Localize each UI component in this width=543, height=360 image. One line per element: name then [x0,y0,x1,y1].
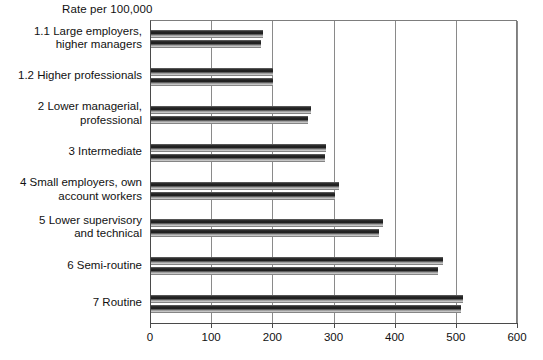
x-tick-200 [272,323,273,328]
chart-axis-note: Rate per 100,000 [62,3,152,15]
bar-group [151,21,516,323]
bar [151,40,261,48]
bar-row [151,68,516,97]
bar [151,229,379,237]
bar [151,78,273,86]
gridline-600 [517,21,518,323]
bar [151,192,335,200]
bar-row [151,295,516,324]
chart-container: Rate per 100,000 1.1 Large employers, hi… [0,0,543,360]
category-label: 2 Lower managerial, professional [0,100,142,127]
x-tick-100 [211,323,212,328]
category-label: 3 Intermediate [0,145,142,159]
category-label: 6 Semi-routine [0,259,142,273]
x-tick-label: 500 [446,331,465,343]
x-tick-label: 400 [385,331,404,343]
bar [151,154,325,162]
x-tick-label: 0 [147,331,153,343]
category-label: 7 Routine [0,296,142,310]
x-tick-label: 300 [324,331,343,343]
x-tick-0 [150,323,151,328]
x-tick-400 [395,323,396,328]
bar [151,68,273,76]
x-tick-label: 200 [263,331,282,343]
bar [151,116,308,124]
x-tick-600 [517,323,518,328]
bar-row [151,257,516,286]
x-tick-label: 100 [202,331,221,343]
bar [151,30,263,38]
category-label-group: 1.1 Large employers, higher managers 1.2… [0,20,146,323]
plot-area [150,20,517,323]
bar [151,295,463,303]
bar [151,257,443,265]
bar-row [151,30,516,59]
x-tick-500 [456,323,457,328]
bar [151,267,438,275]
bar-row [151,106,516,135]
bar [151,106,311,114]
bar-row [151,219,516,248]
bar [151,219,383,227]
bar [151,305,461,313]
category-label: 1.1 Large employers, higher managers [0,25,142,52]
x-tick-300 [334,323,335,328]
bar [151,182,339,190]
category-label: 5 Lower supervisory and technical [0,214,142,241]
x-tick-label: 600 [507,331,526,343]
category-label: 4 Small employers, own account workers [0,176,142,203]
category-label: 1.2 Higher professionals [0,69,142,83]
bar [151,144,326,152]
bar-row [151,182,516,211]
bar-row [151,144,516,173]
